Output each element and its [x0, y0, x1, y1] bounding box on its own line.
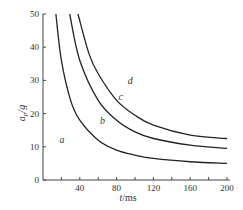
curve-line: [70, 14, 227, 148]
y-tick-label: 40: [30, 42, 40, 52]
y-tick-label: 30: [30, 75, 40, 85]
region-labels: abcd: [60, 75, 134, 146]
y-tick-label: 10: [30, 142, 40, 152]
x-tick-label: 160: [183, 183, 197, 193]
curve-line: [56, 14, 227, 163]
x-tick-label: 200: [220, 183, 234, 193]
y-tick-label: 0: [35, 175, 40, 185]
region-label-a: a: [60, 134, 65, 145]
curves: [56, 14, 227, 163]
region-label-b: b: [100, 115, 105, 126]
y-tick-label: 50: [30, 9, 40, 19]
region-label-c: c: [118, 91, 123, 102]
acceleration-time-chart: 408012016020001020304050 abcd t/ms ap/g: [0, 0, 243, 210]
x-axis-label: t/ms: [119, 192, 136, 203]
region-label-d: d: [128, 75, 134, 86]
y-tick-label: 20: [30, 109, 40, 119]
x-tick-label: 120: [147, 183, 161, 193]
x-tick-label: 40: [75, 183, 85, 193]
tick-labels: 408012016020001020304050: [30, 9, 234, 193]
y-axis-label: ap/g: [16, 105, 29, 121]
